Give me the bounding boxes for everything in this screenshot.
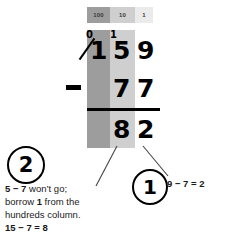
minus-operator-icon [66, 85, 81, 90]
subtrahend-ones-digit: 7 [137, 76, 154, 101]
difference-tens-digit: 8 [113, 117, 130, 142]
step-2-caption-line-1-rest: won’t go; [26, 183, 67, 194]
step-2-caption-line-2: borrow 1 from the [5, 195, 113, 208]
step-2-caption-line-1: 5 − 7 won’t go; [5, 182, 113, 195]
step-2-caption-line-1-bold: 5 − 7 [5, 183, 26, 194]
step-2-caption-line-2-pre: borrow [5, 196, 37, 207]
step-1-caption: 9 − 7 = 2 [167, 178, 205, 189]
step-2-caption: 5 − 7 won’t go; borrow 1 from the hundre… [5, 182, 113, 234]
step-badge-1: 1 [132, 169, 168, 205]
step-2-caption-line-4: 15 − 7 = 8 [5, 221, 113, 234]
minuend-ones-digit: 9 [137, 38, 154, 63]
subtrahend-tens-digit: 7 [113, 76, 130, 101]
answer-rule-divider [87, 108, 160, 111]
step-2-caption-line-3: hundreds column. [5, 208, 113, 221]
place-value-tens-label: 10 [110, 7, 135, 23]
step-2-caption-line-2-post: from the [42, 196, 80, 207]
step-badge-2: 2 [7, 146, 45, 184]
difference-ones-digit: 2 [137, 117, 154, 142]
leader-line-to-step-2 [96, 146, 117, 186]
place-value-ones-label: 1 [135, 7, 153, 23]
minuend-tens-digit: 5 [113, 38, 130, 63]
place-value-hundreds-label: 100 [87, 7, 110, 23]
place-value-header: 100 10 1 [87, 7, 153, 23]
